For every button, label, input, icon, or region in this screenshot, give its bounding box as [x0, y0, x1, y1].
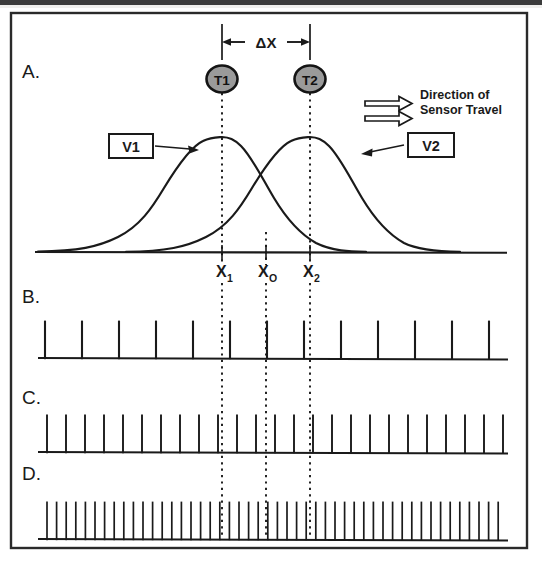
reference-dotted-lines — [222, 93, 310, 540]
callout-v2-label: V2 — [422, 138, 440, 154]
panel-d-pulse-train — [47, 502, 498, 541]
delta-x-left-arrow — [222, 38, 245, 46]
axis-label-x1-sub: 1 — [227, 272, 233, 284]
axis-label-x0-sub: O — [269, 272, 277, 284]
callout-v2: V2 — [361, 133, 454, 157]
axis-label-x2: X 2 — [303, 263, 320, 284]
callout-v1-label: V1 — [122, 139, 140, 155]
panel-b-baseline — [38, 358, 508, 360]
panel-a: A. ΔX T1 T2 Direction o — [22, 24, 507, 284]
panel-a-label: A. — [22, 61, 40, 82]
panel-b-pulse-train — [45, 321, 489, 360]
sensor-t1: T1 — [207, 66, 238, 93]
axis-label-x2-main: X — [303, 263, 314, 280]
panel-c-baseline — [38, 452, 508, 454]
axis-label-x2-sub: 2 — [314, 272, 320, 284]
panel-c-pulse-train — [47, 415, 503, 454]
callout-v1: V1 — [109, 134, 199, 158]
panel-b-label: B. — [22, 286, 40, 307]
axis-label-x1: X 1 — [216, 263, 233, 284]
sensor-t2: T2 — [295, 66, 326, 93]
axis-label-x0-main: X — [258, 263, 269, 280]
axis-label-x1-main: X — [216, 263, 227, 280]
panel-d-baseline — [38, 539, 508, 541]
callout-v1-leader — [155, 146, 190, 149]
panel-d: D. — [22, 463, 508, 541]
callout-v2-leader — [370, 145, 404, 152]
curve-v1 — [38, 137, 366, 252]
figure-container: A. ΔX T1 T2 Direction o — [0, 0, 542, 562]
panel-d-label: D. — [22, 463, 41, 484]
callout-v2-arrowhead — [361, 149, 373, 157]
direction-label-line1: Direction of — [420, 88, 490, 102]
panel-c-label: C. — [22, 387, 41, 408]
figure-svg: A. ΔX T1 T2 Direction o — [0, 0, 542, 562]
panel-a-baseline — [35, 252, 507, 253]
panel-b: B. — [22, 286, 508, 360]
delta-x-right-arrow — [287, 38, 310, 46]
axis-label-x0: X O — [258, 263, 277, 284]
panel-c: C. — [22, 387, 508, 454]
direction-label-line2: Sensor Travel — [420, 103, 502, 117]
direction-arrow-upper — [365, 97, 412, 111]
delta-x-label: ΔX — [256, 34, 277, 51]
direction-arrow-lower — [365, 112, 412, 126]
sensor-t2-label: T2 — [302, 73, 318, 88]
sensor-t1-label: T1 — [214, 73, 230, 88]
